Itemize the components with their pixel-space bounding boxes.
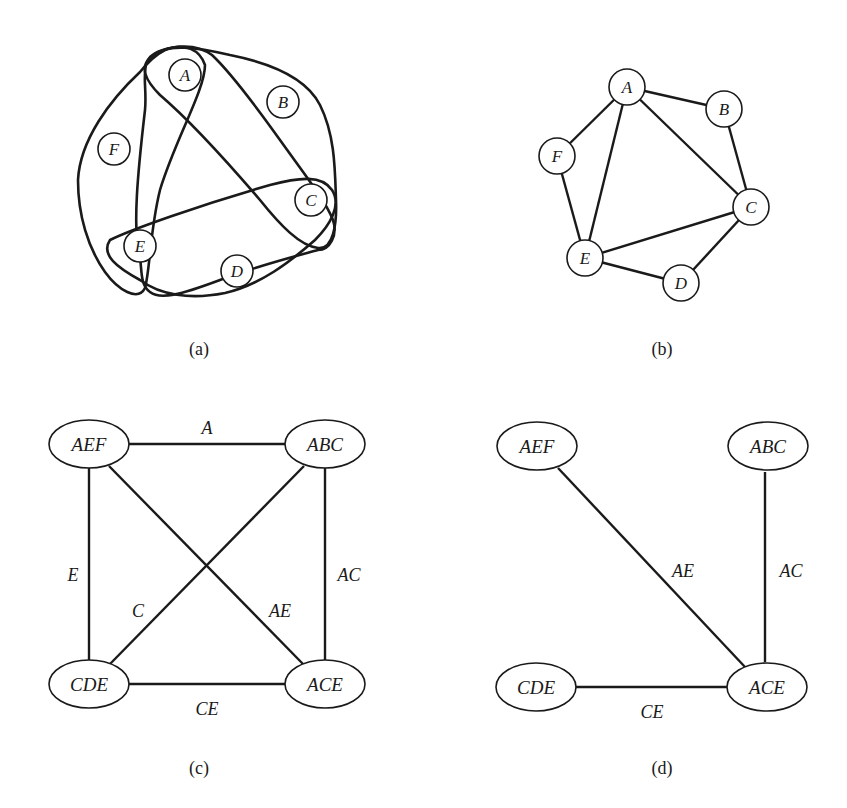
edge-label-ce: CE [195, 699, 218, 719]
panel-d: AEF ABC CDE ACE AE AC CE (d) [496, 422, 808, 779]
node-d-label: D [674, 274, 688, 293]
caption-c: (c) [189, 758, 209, 779]
node-aef-label: AEF [70, 434, 107, 455]
panel-a: A B C D E F (a) [78, 47, 336, 360]
edge-label-ae: AE [671, 561, 694, 581]
edge-label-ac: AC [336, 565, 361, 585]
node-f-label: F [108, 140, 120, 159]
edge-label-a: A [201, 418, 214, 438]
node-ace-label: ACE [747, 677, 785, 698]
node-b-label: B [278, 93, 289, 112]
node-e-label: E [579, 249, 591, 268]
node-aef-label: AEF [518, 436, 555, 457]
node-a-label: A [179, 66, 191, 85]
node-f-label: F [551, 147, 563, 166]
node-ace-label: ACE [305, 674, 343, 695]
caption-d: (d) [652, 758, 673, 779]
edge-label-ac: AC [778, 561, 803, 581]
edge-a-e [585, 87, 627, 258]
node-a-label: A [621, 78, 633, 97]
node-b-label: B [719, 100, 730, 119]
edge-label-ce: CE [640, 702, 663, 722]
node-c-label: C [745, 198, 757, 217]
panel-c: AEF ABC CDE ACE A E AC C AE CE (c) [49, 418, 365, 779]
edge-label-ae: AE [268, 601, 291, 621]
node-abc-label: ABC [748, 436, 786, 457]
node-e-label: E [134, 237, 146, 256]
node-abc-label: ABC [305, 434, 343, 455]
caption-a: (a) [189, 339, 209, 360]
panel-b: A B C D E F (b) [539, 69, 769, 360]
node-cde-label: CDE [70, 674, 108, 695]
caption-b: (b) [652, 339, 673, 360]
figure-canvas: A B C D E F (a) A B C D E F (b) [0, 0, 847, 808]
edge-label-c: C [132, 601, 145, 621]
node-d-label: D [230, 262, 244, 281]
edge-label-e: E [67, 565, 79, 585]
node-cde-label: CDE [517, 677, 555, 698]
node-c-label: C [305, 191, 317, 210]
edge-aef-ace [558, 468, 745, 667]
